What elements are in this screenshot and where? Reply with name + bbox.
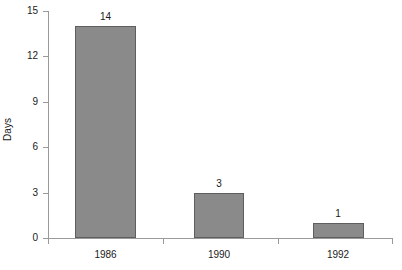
bar-value-1990: 3 — [189, 178, 249, 189]
x-tick-1 — [163, 239, 164, 244]
y-tick-label-12: 12 — [8, 51, 38, 61]
y-tick-15 — [43, 11, 49, 12]
y-axis-line — [48, 11, 49, 239]
y-tick-label-0: 0 — [8, 233, 38, 243]
x-tick-label-1986: 1986 — [75, 249, 136, 260]
x-axis-line — [48, 238, 393, 239]
y-tick-3 — [43, 193, 49, 194]
bar-chart: Days 15 12 9 6 3 0 14 1986 3 1990 1 1992 — [0, 0, 402, 270]
y-tick-label-9: 9 — [8, 97, 38, 107]
y-tick-label-15: 15 — [8, 6, 38, 16]
x-tick-3 — [392, 239, 393, 244]
y-tick-12 — [43, 56, 49, 57]
y-tick-label-6: 6 — [8, 142, 38, 152]
bar-value-1992: 1 — [308, 208, 368, 219]
x-tick-label-1990: 1990 — [189, 249, 249, 260]
x-tick-2 — [278, 239, 279, 244]
x-tick-0 — [48, 239, 49, 244]
bar-value-1986: 14 — [75, 11, 136, 22]
bar-1986 — [75, 26, 136, 238]
bar-1992 — [313, 223, 364, 238]
x-tick-label-1992: 1992 — [308, 249, 368, 260]
y-tick-label-3: 3 — [8, 188, 38, 198]
y-tick-9 — [43, 102, 49, 103]
bar-1990 — [194, 193, 244, 238]
y-tick-6 — [43, 147, 49, 148]
